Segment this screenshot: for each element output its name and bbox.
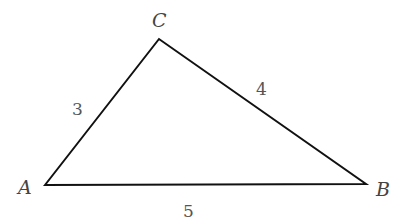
triangle-diagram: A B C 3 4 5 xyxy=(0,0,402,224)
side-label-ac: 3 xyxy=(72,99,83,119)
vertex-label-c: C xyxy=(152,9,167,31)
triangle-abc xyxy=(45,39,366,185)
vertex-label-b: B xyxy=(375,178,390,200)
side-label-ab: 5 xyxy=(183,201,194,221)
vertex-label-a: A xyxy=(16,176,32,198)
side-label-cb: 4 xyxy=(256,79,267,99)
